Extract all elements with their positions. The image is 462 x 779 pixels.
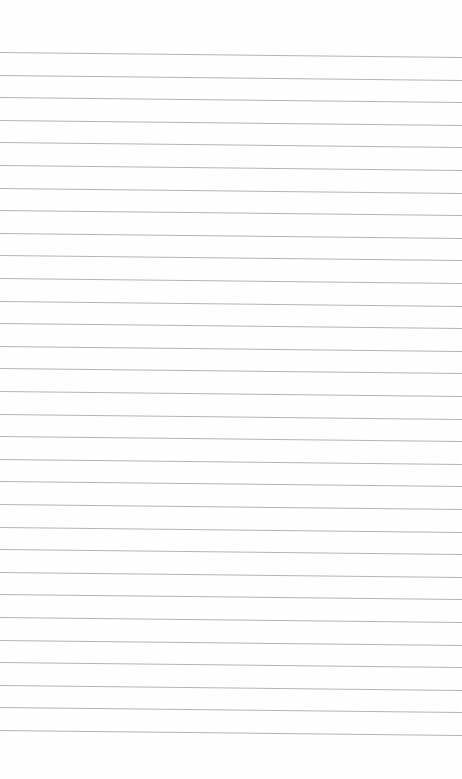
ruled-line <box>0 210 462 216</box>
ruled-line <box>0 391 462 397</box>
ruled-line <box>0 662 462 668</box>
ruled-line <box>0 572 462 578</box>
ruled-line <box>0 278 462 284</box>
ruled-line <box>0 640 462 646</box>
ruled-line <box>0 504 462 510</box>
ruled-line <box>0 52 462 58</box>
ruled-line <box>0 368 462 374</box>
ruled-line <box>0 233 462 239</box>
ruled-line <box>0 685 462 691</box>
ruled-line <box>0 165 462 171</box>
ruled-line <box>0 527 462 533</box>
ruled-line <box>0 730 462 736</box>
ruled-line <box>0 549 462 555</box>
ruled-line <box>0 120 462 126</box>
ruled-line <box>0 459 462 465</box>
ruled-line <box>0 481 462 487</box>
ruled-line <box>0 75 462 81</box>
ruled-line <box>0 255 462 261</box>
ruled-line <box>0 346 462 352</box>
ruled-line <box>0 97 462 103</box>
ruled-line <box>0 436 462 442</box>
ruled-line <box>0 617 462 623</box>
ruled-line <box>0 594 462 600</box>
ruled-line <box>0 188 462 194</box>
ruled-line <box>0 707 462 713</box>
ruled-line <box>0 301 462 307</box>
ruled-line <box>0 323 462 329</box>
ruled-line <box>0 142 462 148</box>
ruled-line <box>0 414 462 420</box>
